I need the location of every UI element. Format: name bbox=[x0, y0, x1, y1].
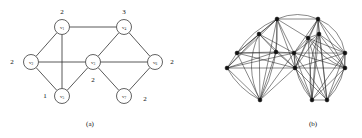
graph-edge bbox=[227, 53, 294, 68]
graph-node-b6 bbox=[274, 50, 278, 54]
graph-edge bbox=[227, 53, 237, 68]
graph-node-b3 bbox=[257, 32, 261, 36]
graph-node-b12 bbox=[310, 98, 314, 102]
graph-node-v4: v4 bbox=[117, 20, 132, 35]
graph-node-v6: v6 bbox=[148, 55, 163, 70]
edge-weight-label: 3 bbox=[122, 8, 126, 16]
graph-edge bbox=[36, 33, 57, 57]
graph-edge bbox=[327, 68, 345, 100]
panel-b-svg: (b) bbox=[181, 0, 362, 138]
graph-edge bbox=[36, 68, 57, 91]
graph-node-b10 bbox=[317, 32, 321, 36]
graph-edge bbox=[67, 68, 88, 91]
graph-edge bbox=[227, 19, 277, 68]
panel-a-node-group: v1v2v3v4v5v6v7 bbox=[24, 20, 163, 104]
graph-node-b15 bbox=[343, 66, 347, 70]
edge-weight-label: 2 bbox=[143, 95, 147, 103]
edge-weight-label: 2 bbox=[10, 58, 14, 66]
edge-weight-label: 1 bbox=[43, 92, 47, 100]
graph-node-v3: v3 bbox=[86, 55, 101, 70]
graph-node-b11 bbox=[316, 17, 320, 21]
graph-edge bbox=[294, 38, 308, 53]
graph-node-b7 bbox=[292, 51, 296, 55]
figure-container: v1v2v3v4v5v6v7 2322122 (a) (b) bbox=[0, 0, 362, 138]
graph-node-b9 bbox=[306, 36, 310, 40]
graph-node-b5 bbox=[275, 17, 279, 21]
graph-node-v2: v2 bbox=[24, 55, 39, 70]
graph-node-b2 bbox=[225, 66, 229, 70]
panel-a-weighted-graph: v1v2v3v4v5v6v7 2322122 (a) bbox=[0, 0, 181, 138]
graph-node-v1: v1 bbox=[55, 20, 70, 35]
panel-a-caption: (a) bbox=[86, 120, 94, 128]
panel-b-caption: (b) bbox=[309, 120, 318, 128]
graph-edge bbox=[129, 33, 150, 57]
graph-node-b14 bbox=[343, 51, 347, 55]
graph-edge-curved bbox=[251, 34, 260, 100]
graph-node-b4 bbox=[258, 98, 262, 102]
graph-node-v7: v7 bbox=[117, 89, 132, 104]
graph-edge-curved bbox=[277, 15, 318, 20]
graph-node-b1 bbox=[235, 51, 239, 55]
graph-edge bbox=[98, 33, 119, 57]
graph-edge bbox=[295, 68, 312, 100]
graph-edge bbox=[318, 19, 327, 100]
graph-node-v5: v5 bbox=[55, 89, 70, 104]
graph-node-b13 bbox=[325, 98, 329, 102]
graph-edge bbox=[98, 68, 119, 91]
graph-edge bbox=[312, 68, 345, 100]
panel-b-curved-edge-group bbox=[227, 15, 345, 101]
edge-weight-label: 2 bbox=[91, 76, 95, 84]
panel-b-edge-group bbox=[227, 19, 345, 100]
graph-edge bbox=[129, 68, 150, 91]
panel-b-dense-graph: (b) bbox=[181, 0, 362, 138]
panel-a-svg: v1v2v3v4v5v6v7 2322122 (a) bbox=[0, 0, 181, 138]
graph-edge bbox=[227, 68, 260, 100]
graph-edge bbox=[259, 34, 260, 100]
graph-node-b8 bbox=[293, 66, 297, 70]
edge-weight-label: 2 bbox=[170, 58, 174, 66]
edge-weight-label: 2 bbox=[60, 8, 64, 16]
